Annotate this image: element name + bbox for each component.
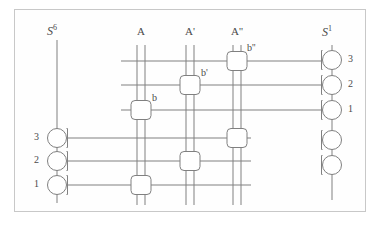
gate-label-b-double-prime: b'' [247, 43, 256, 53]
right-node-circle-u4[interactable] [323, 156, 342, 175]
gate-box-b0[interactable] [131, 101, 151, 120]
column-label-a-prime: A' [185, 26, 195, 37]
right-rail-label: S1 [322, 25, 332, 38]
left-node-circle-2[interactable] [48, 152, 67, 171]
right-node-label-3: 3 [348, 54, 353, 64]
left-node-label-3: 3 [34, 132, 39, 142]
gate-boxes-group [131, 52, 247, 195]
gate-box-g1[interactable] [131, 176, 151, 195]
right-node-circle-u3[interactable] [323, 131, 342, 150]
gate-box-g3[interactable] [227, 129, 247, 148]
right-node-label-2: 2 [348, 79, 353, 89]
left-rail-label: S6 [47, 24, 57, 37]
left-rail-superscript: 6 [53, 23, 57, 32]
gate-box-b1[interactable] [180, 76, 200, 95]
column-label-a-double-prime: A'' [231, 26, 243, 37]
right-node-circle-2[interactable] [323, 76, 342, 95]
right-node-label-1: 1 [348, 104, 353, 114]
gate-label-b: b [152, 93, 157, 103]
left-node-label-1: 1 [34, 179, 39, 189]
left-node-label-2: 2 [34, 155, 39, 165]
left-node-circle-3[interactable] [48, 129, 67, 148]
right-node-circle-3[interactable] [323, 51, 342, 70]
right-node-circle-1[interactable] [323, 101, 342, 120]
gate-label-b-prime: b' [201, 68, 208, 78]
gate-box-g2[interactable] [180, 152, 200, 171]
figure-root: S6 S1 A A' A'' b'' b' b 3 2 1 3 2 1 [0, 0, 382, 228]
gate-box-b2[interactable] [227, 52, 247, 71]
column-label-a: A [137, 26, 145, 37]
left-node-circle-1[interactable] [48, 176, 67, 195]
right-rail-superscript: 1 [328, 24, 332, 33]
column-wires-group [137, 45, 241, 205]
